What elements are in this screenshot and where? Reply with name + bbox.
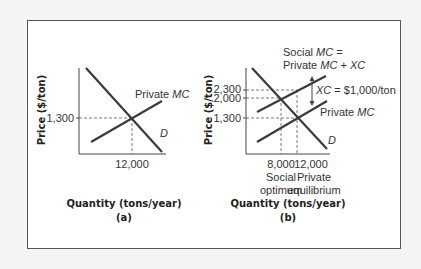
panel-b-y-tick-2000: 2,000 bbox=[213, 92, 241, 104]
panel-b-y-tick-1300: 1,300 bbox=[213, 112, 241, 124]
panel-b-private-mc-label: Private MC bbox=[320, 106, 374, 118]
panel-b-x-sublabel-private: Private bbox=[297, 171, 331, 183]
panel-b: 2,300 2,000 1,300 8,000 12,000 Social op… bbox=[203, 46, 396, 223]
panel-a-y-axis-title: Price ($/ton) bbox=[36, 75, 47, 145]
panel-b-social-mc-label-line2: Private MC + XC bbox=[283, 59, 365, 71]
chart-canvas: 1,300 12,000 Private MC D Price ($/ton) … bbox=[0, 0, 421, 269]
panel-b-xc-label: XC = $1,000/ton bbox=[315, 84, 396, 96]
panel-b-demand-label: D bbox=[328, 134, 336, 146]
panel-a-label: (a) bbox=[116, 212, 132, 223]
panel-b-x-sublabel-equilibrium: equilibrium bbox=[287, 184, 340, 196]
panel-a-x-tick-12000: 12,000 bbox=[115, 158, 149, 170]
panel-a-private-mc-label: Private MC bbox=[135, 88, 189, 100]
panel-a-x-axis-title: Quantity (tons/year) bbox=[67, 198, 182, 209]
panel-b-label: (b) bbox=[280, 212, 296, 223]
panel-a-demand-label: D bbox=[160, 127, 168, 139]
panel-b-social-mc-label-line1: Social MC = bbox=[283, 46, 343, 58]
panel-a: 1,300 12,000 Private MC D Price ($/ton) … bbox=[36, 68, 189, 223]
panel-b-y-axis-title: Price ($/ton) bbox=[203, 75, 214, 145]
panel-b-xc-arrow-icon bbox=[310, 76, 315, 106]
panel-a-private-mc-curve bbox=[91, 101, 162, 142]
panel-b-x-tick-8000: 8,000 bbox=[267, 158, 295, 170]
panel-b-x-tick-12000: 12,000 bbox=[294, 158, 328, 170]
panel-b-x-axis-title: Quantity (tons/year) bbox=[231, 198, 346, 209]
panel-a-y-tick-1300: 1,300 bbox=[46, 112, 74, 124]
panel-b-x-sublabel-social: Social bbox=[266, 171, 296, 183]
